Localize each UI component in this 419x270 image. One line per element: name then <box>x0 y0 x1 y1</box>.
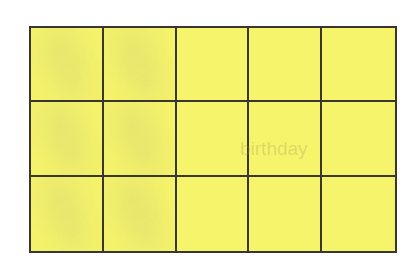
grid-cell-r3c5 <box>322 177 395 251</box>
grid-cell-r2c1 <box>31 102 104 176</box>
grid-cell-r3c4 <box>249 177 322 251</box>
grid-cell-r1c4 <box>249 28 322 102</box>
grid-cell-r2c5 <box>322 102 395 176</box>
grid-cell-r1c5 <box>322 28 395 102</box>
grid-cell-r1c2 <box>104 28 177 102</box>
grid-cell-r3c2 <box>104 177 177 251</box>
grid-cell-r2c2 <box>104 102 177 176</box>
yellow-grid <box>29 26 397 253</box>
grid-cell-r2c4 <box>249 102 322 176</box>
grid-cell-r2c3 <box>177 102 250 176</box>
grid-cell-r3c1 <box>31 177 104 251</box>
grid-cell-r1c1 <box>31 28 104 102</box>
grid-cell-r1c3 <box>177 28 250 102</box>
grid-cell-r3c3 <box>177 177 250 251</box>
